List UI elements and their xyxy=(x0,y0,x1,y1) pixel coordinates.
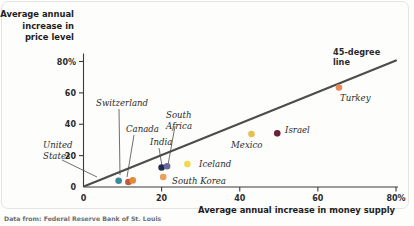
y-axis-tick-label: 80% xyxy=(57,58,76,67)
text-layer: 020406080%020406080%UnitedStatesSwitzerl… xyxy=(0,9,405,222)
point-label-canada: Canada xyxy=(126,124,159,134)
y-axis-title: Average annualincrease inprice level xyxy=(0,9,74,42)
x-axis-tick-label: 20 xyxy=(156,194,168,203)
y-axis-tick-label: 0 xyxy=(70,183,76,192)
label-leader-line xyxy=(127,135,134,177)
data-point-south-korea xyxy=(160,174,167,181)
x-axis-title: Average annual increase in money supply xyxy=(198,205,396,215)
label-leader-line xyxy=(62,160,97,177)
y-axis-tick-label: 60 xyxy=(65,89,77,98)
forty-five-degree-line-label: 45-degreeline xyxy=(333,47,381,67)
scatter-plot-svg: 020406080%020406080%UnitedStatesSwitzerl… xyxy=(0,0,414,226)
point-label-israel: Israel xyxy=(284,125,310,135)
y-axis-tick-label: 40 xyxy=(65,120,77,129)
point-label-iceland: Iceland xyxy=(198,159,232,169)
data-point-israel xyxy=(274,130,281,137)
data-point-canada xyxy=(129,177,136,184)
data-point-turkey xyxy=(336,84,343,91)
data-point-india xyxy=(158,164,165,171)
data-point-mexico xyxy=(248,131,255,138)
point-label-turkey: Turkey xyxy=(340,93,371,103)
point-label-south-africa: SouthAfrica xyxy=(165,110,192,131)
x-axis-tick-label: 0 xyxy=(81,194,87,203)
point-label-india: India xyxy=(149,137,172,147)
chart-figure: 020406080%020406080%UnitedStatesSwitzerl… xyxy=(0,0,414,226)
data-point-south-africa xyxy=(164,163,171,170)
data-point-united-states xyxy=(115,177,122,184)
source-note: Data from: Federal Reserve Bank of St. L… xyxy=(4,215,162,222)
x-axis-tick-label: 40 xyxy=(234,194,246,203)
point-label-united-states: UnitedStates xyxy=(43,140,73,161)
data-point-iceland xyxy=(184,161,191,168)
axes-layer xyxy=(79,54,398,192)
point-label-mexico: Mexico xyxy=(230,140,262,150)
x-axis-tick-label: 80% xyxy=(386,194,405,203)
point-label-south-korea: South Korea xyxy=(172,176,226,186)
x-axis-tick-label: 60 xyxy=(312,194,324,203)
label-leader-line xyxy=(119,109,120,175)
point-label-switzerland: Switzerland xyxy=(96,98,149,108)
